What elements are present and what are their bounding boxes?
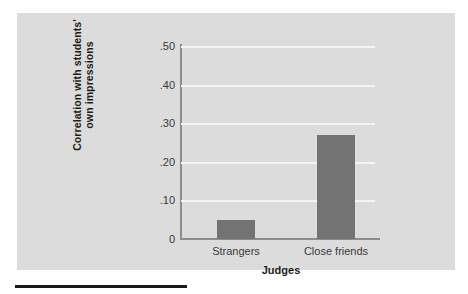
x-tick-label-strangers: Strangers	[196, 244, 276, 258]
y-axis-title-line1: Correlation with students'	[71, 19, 83, 151]
y-tick-label: .50	[145, 41, 175, 52]
x-tick-label-close-friends: Close friends	[296, 244, 376, 258]
y-axis-tick-labels: .50 .40 .30 .20 .10 0	[145, 13, 175, 270]
gridline-040	[181, 85, 375, 87]
y-tick-label: .10	[145, 195, 175, 206]
y-tick-label: .20	[145, 157, 175, 168]
figure-panel: .50 .40 .30 .20 .10 0 Correlation with s…	[17, 13, 455, 270]
bar-close-friends[interactable]	[317, 135, 355, 239]
plot-area	[181, 46, 375, 239]
bar-strangers[interactable]	[217, 220, 255, 239]
caption-rule	[15, 285, 187, 288]
y-tick-label: .40	[145, 80, 175, 91]
y-tick-label: .30	[145, 118, 175, 129]
y-axis-title-line2: own impressions	[83, 41, 95, 128]
gridline-050	[181, 46, 375, 48]
x-axis-tick-labels: Strangers Close friends	[181, 244, 381, 260]
y-tick-label: 0	[145, 234, 175, 245]
x-axis-title: Judges	[181, 264, 381, 276]
y-axis-title: Correlation with students' own impressio…	[71, 10, 95, 160]
gridline-030	[181, 123, 375, 125]
